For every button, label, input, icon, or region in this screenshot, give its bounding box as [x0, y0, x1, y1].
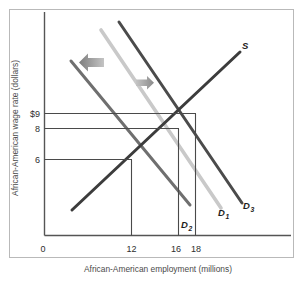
curve-sublabel-d3: 3	[251, 206, 255, 213]
origin-label: 0	[40, 244, 45, 254]
x-tick-label-16: 16	[171, 244, 181, 254]
y-tick-label-8: 8	[35, 124, 40, 134]
chart-figure: $9 8 6 12 16 18 0 S D 1 D 2 D 3 African-…	[0, 0, 304, 287]
y-axis-title: African-American wage rate (dollars)	[10, 60, 20, 196]
curve-sublabel-d2: 2	[188, 225, 193, 232]
curve-label-d3: D	[243, 200, 250, 211]
curve-label-s: S	[242, 40, 249, 51]
curve-label-d2: D	[181, 219, 188, 230]
chart-svg: $9 8 6 12 16 18 0 S D 1 D 2 D 3 African-…	[0, 0, 304, 287]
y-tick-label-6: 6	[35, 155, 40, 165]
curve-label-d1: D	[218, 207, 225, 218]
x-tick-label-12: 12	[126, 244, 136, 254]
x-axis-title: African-American employment (millions)	[84, 264, 232, 274]
y-tick-label-9: $9	[30, 109, 40, 119]
curve-sublabel-d1: 1	[226, 213, 230, 220]
x-tick-label-18: 18	[191, 244, 201, 254]
